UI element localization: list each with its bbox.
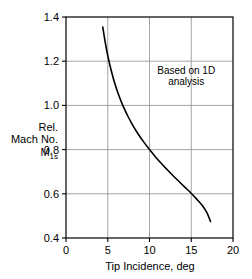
x-tick-label-0: 0 bbox=[63, 244, 69, 256]
chart-figure: 0.40.60.81.01.21.4 05101520 Based on 1Da… bbox=[0, 0, 252, 279]
x-tick-label-20: 20 bbox=[227, 244, 239, 256]
y-axis-title-subscript: 1s bbox=[50, 152, 58, 161]
x-tick-label-10: 10 bbox=[143, 244, 155, 256]
rel-mach-number-vs-tip-incidence-chart: 0.40.60.81.01.21.4 05101520 Based on 1Da… bbox=[0, 0, 252, 279]
y-tick-label-1.2: 1.2 bbox=[44, 55, 59, 67]
x-tick-label-15: 15 bbox=[185, 244, 197, 256]
y-tick-label-0.6: 0.6 bbox=[44, 188, 59, 200]
y-tick-label-0.4: 0.4 bbox=[44, 232, 59, 244]
y-axis-title-line-1: Rel. bbox=[38, 121, 58, 133]
y-tick-label-1.0: 1.0 bbox=[44, 99, 59, 111]
annotation-based-on-1d-analysis-line-2: analysis bbox=[168, 76, 204, 87]
y-axis-title-line-2: Mach No. bbox=[11, 133, 58, 145]
x-tick-label-5: 5 bbox=[105, 244, 111, 256]
annotation-based-on-1d-analysis-line-1: Based on 1D bbox=[157, 65, 215, 76]
y-tick-label-1.4: 1.4 bbox=[44, 11, 59, 23]
x-axis-title: Tip Incidence, deg bbox=[105, 260, 194, 272]
y-axis-title-symbol: M bbox=[40, 146, 49, 158]
